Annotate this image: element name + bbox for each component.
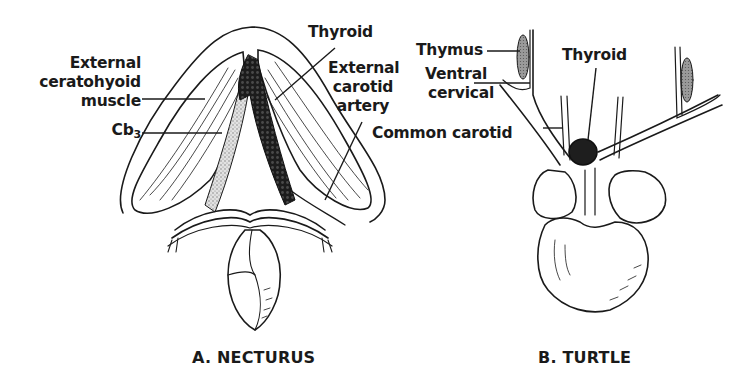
necturus-heart [228,230,280,330]
label-external-ceratohyoid-line3: muscle [20,93,141,110]
label-thymus: Thymus [416,42,483,59]
label-turtle-thyroid: Thyroid [562,47,627,64]
caption-necturus: A. NECTURUS [192,348,315,367]
left-thymus [517,35,529,79]
label-external-carotid-line1: External [328,60,398,77]
turtle-drawing [500,30,722,312]
label-external-ceratohyoid-line1: External [20,55,141,72]
left-atrium [533,170,576,219]
aortic-arches [175,210,325,230]
label-external-carotid-line3: artery [328,98,398,115]
turtle-thyroid [569,139,597,165]
label-cb3: Cb3 [20,122,141,143]
label-ventral-cervical-line1: Ventral [425,66,487,83]
label-cb3-subscript: 3 [134,128,141,141]
label-ventral-cervical-line2: cervical [428,85,494,102]
label-common-carotid: Common carotid [372,125,512,142]
right-atrium [609,171,666,223]
label-cb3-base: Cb [111,121,133,139]
turtle-ventricle [538,218,648,312]
label-external-ceratohyoid-line2: ceratohyoid [20,74,141,91]
right-thymus [681,58,693,102]
anatomy-figure: External ceratohyoid muscle Cb3 Thyroid … [0,0,753,388]
label-external-carotid-line2: carotid [328,79,398,96]
label-necturus-thyroid: Thyroid [308,24,373,41]
caption-turtle: B. TURTLE [538,348,631,367]
